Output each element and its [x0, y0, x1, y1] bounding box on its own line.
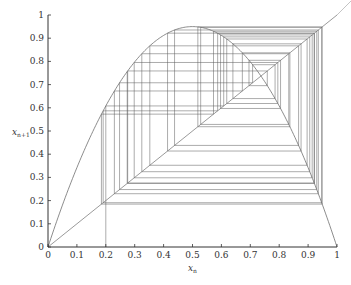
axes: 00.10.20.30.40.50.60.70.80.9100.10.20.30… — [30, 10, 340, 260]
y-tick-label: 0.6 — [30, 103, 45, 113]
x-tick-label: 0.2 — [99, 250, 113, 260]
y-tick-label: 0.7 — [30, 80, 45, 90]
x-tick-label: 0.9 — [301, 250, 316, 260]
cobweb-path — [101, 27, 322, 247]
identity-line-extension — [337, 1, 351, 15]
y-tick-label: 0.9 — [30, 33, 45, 43]
x-tick-label: 0.7 — [243, 250, 258, 260]
plot-area — [48, 1, 351, 247]
x-tick-label: 0.6 — [214, 250, 229, 260]
x-tick-label: 0.8 — [272, 250, 287, 260]
logistic-curve — [48, 27, 337, 247]
y-tick-label: 1 — [38, 10, 44, 20]
y-tick-label: 0.3 — [30, 172, 45, 182]
y-axis-label: xn+1 — [12, 127, 30, 138]
x-axis-label: xn — [188, 263, 197, 274]
y-tick-label: 0.4 — [30, 149, 45, 159]
y-tick-label: 0.5 — [30, 126, 45, 136]
cobweb-chart: 00.10.20.30.40.50.60.70.80.9100.10.20.30… — [0, 0, 351, 285]
y-tick-label: 0.8 — [30, 56, 45, 66]
x-tick-label: 0 — [45, 250, 51, 260]
y-tick-label: 0.2 — [30, 196, 44, 206]
identity-line — [48, 15, 337, 247]
x-tick-label: 0.4 — [156, 250, 171, 260]
y-tick-label: 0.1 — [30, 219, 44, 229]
x-tick-label: 0.1 — [70, 250, 84, 260]
x-tick-label: 1 — [334, 250, 340, 260]
x-tick-label: 0.3 — [128, 250, 143, 260]
y-tick-label: 0 — [38, 242, 44, 252]
x-tick-label: 0.5 — [185, 250, 200, 260]
